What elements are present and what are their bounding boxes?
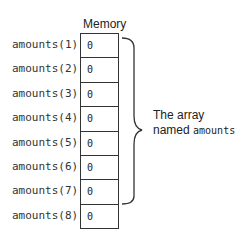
- memory-cells: 0 0 0 0 0 0 0 0: [80, 33, 119, 229]
- memory-cell: 0: [81, 156, 118, 180]
- memory-cell: 0: [81, 132, 118, 156]
- memory-cell: 0: [81, 34, 118, 58]
- caption-prefix: named: [153, 123, 193, 137]
- element-labels: amounts(1) amounts(2) amounts(3) amounts…: [12, 33, 78, 228]
- element-label: amounts(4): [12, 106, 78, 130]
- caption-line-1: The array: [153, 108, 235, 123]
- element-label: amounts(6): [12, 155, 78, 179]
- array-caption: The array named amounts: [153, 108, 235, 138]
- element-label: amounts(2): [12, 57, 78, 81]
- curly-brace-icon: [120, 36, 150, 206]
- memory-cell: 0: [81, 180, 118, 204]
- element-label: amounts(7): [12, 179, 78, 203]
- caption-line-2: named amounts: [153, 123, 235, 138]
- memory-cell: 0: [81, 83, 118, 107]
- memory-cell: 0: [81, 107, 118, 131]
- element-label: amounts(1): [12, 33, 78, 57]
- element-label: amounts(8): [12, 204, 78, 228]
- memory-cell: 0: [81, 58, 118, 82]
- memory-cell: 0: [81, 205, 118, 229]
- memory-label: Memory: [83, 17, 126, 31]
- element-label: amounts(5): [12, 131, 78, 155]
- caption-array-name: amounts: [193, 125, 235, 136]
- element-label: amounts(3): [12, 82, 78, 106]
